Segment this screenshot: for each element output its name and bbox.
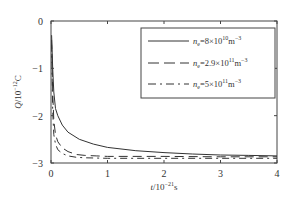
legend-label-1: ne=8×1010m−3	[193, 35, 241, 47]
y-tick-label: 0	[38, 16, 43, 27]
y-tick-label: −1	[32, 63, 43, 74]
legend: ne=8×1010m−3 ne=2.9×1011m−3 ne=5×1011m−3	[141, 28, 275, 98]
x-tick-label: 1	[105, 168, 110, 179]
x-tick-label: 2	[162, 168, 167, 179]
y-tick-label: −2	[32, 111, 43, 122]
x-tick-label: 4	[275, 168, 280, 179]
x-axis-label: t/10−21s	[151, 181, 178, 192]
x-tick-label: 3	[218, 168, 223, 179]
y-tick-label: −3	[32, 158, 43, 169]
legend-label-2: ne=2.9×1011m−3	[193, 57, 247, 69]
legend-label-3: ne=5×1011m−3	[193, 78, 241, 90]
charge-decay-chart: 01234 0−1−2−3 t/10−21s Q/10−12C ne=8×101…	[0, 0, 293, 205]
x-tick-label: 0	[49, 168, 54, 179]
y-axis-label: Q/10−12C	[12, 75, 23, 108]
